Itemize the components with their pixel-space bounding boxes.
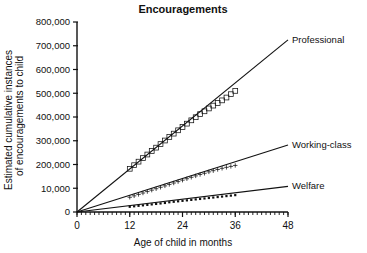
trend-line-welfare (77, 186, 288, 212)
y-tick-label: 0 (65, 206, 70, 217)
data-point (155, 203, 157, 205)
trend-lines (77, 40, 288, 212)
y-tick-label: 600,000 (36, 64, 70, 75)
data-point (225, 195, 227, 197)
data-point (186, 199, 188, 201)
series-markers (127, 88, 237, 207)
data-point (208, 197, 210, 199)
y-axis-title-line1: Estimated cumulative instances (3, 50, 14, 190)
series-label-working-class: Working-class (292, 139, 352, 150)
y-tick-label: 400,000 (36, 111, 70, 122)
data-point (173, 201, 175, 203)
y-tick-label: 500,000 (36, 88, 70, 99)
data-point (181, 200, 183, 202)
y-tick-label: 300,000 (36, 135, 70, 146)
x-tick-label: 0 (74, 220, 80, 231)
y-tick-label: 700,000 (36, 40, 70, 51)
data-point (224, 165, 228, 169)
series-welfare (129, 194, 237, 208)
data-point (146, 204, 148, 206)
chart-title: Encouragements (138, 3, 227, 15)
data-point (230, 195, 232, 197)
chart-figure: Encouragements Estimated cumulative inst… (0, 0, 367, 253)
data-point (177, 200, 179, 202)
data-point (234, 194, 236, 196)
trend-line-professional (77, 40, 288, 212)
x-axis-title: Age of child in months (134, 237, 232, 248)
x-tick-label: 12 (124, 220, 136, 231)
x-tick-label: 24 (177, 220, 189, 231)
data-point (229, 164, 233, 168)
data-point (212, 196, 214, 198)
data-point (168, 201, 170, 203)
data-point (203, 197, 205, 199)
data-point (137, 205, 139, 207)
y-axis-tick-labels: 010,000200,000300,000400,000500,000600,0… (36, 16, 70, 217)
encouragements-chart: Encouragements Estimated cumulative inst… (0, 0, 367, 253)
data-point (190, 199, 192, 201)
series-label-welfare: Welfare (292, 180, 325, 191)
data-point (199, 198, 201, 200)
data-point (233, 163, 237, 167)
y-tick-label: 200,000 (36, 159, 70, 170)
series-labels: ProfessionalWorking-classWelfare (292, 34, 352, 192)
x-tick-label: 48 (282, 220, 294, 231)
x-axis-tick-labels: 012243648 (74, 220, 294, 231)
data-point (129, 206, 131, 208)
x-axis-ticks (77, 212, 288, 217)
y-tick-label: 800,000 (36, 16, 70, 27)
y-tick-label: 10,000 (41, 183, 70, 194)
data-point (195, 198, 197, 200)
x-tick-label: 36 (230, 220, 242, 231)
data-point (164, 202, 166, 204)
y-axis-title: Estimated cumulative instances of encour… (3, 50, 25, 190)
series-label-professional: Professional (292, 34, 344, 45)
data-point (142, 204, 144, 206)
data-point (133, 205, 135, 207)
data-point (159, 202, 161, 204)
series-professional (127, 88, 237, 171)
y-axis-title-line2: of encouragements to child (14, 56, 25, 176)
data-point (151, 203, 153, 205)
data-point (221, 195, 223, 197)
data-point (217, 196, 219, 198)
